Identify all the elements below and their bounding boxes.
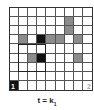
grid-cell <box>74 54 83 63</box>
grid-cell <box>65 44 74 53</box>
grid-cell <box>28 44 37 53</box>
grid-cell <box>28 63 37 72</box>
grid-cell <box>10 44 19 53</box>
grid-cell <box>28 35 37 44</box>
grid-cell <box>56 44 65 53</box>
grid-cell <box>37 44 46 53</box>
grid-cell <box>56 81 65 90</box>
grid-cell <box>19 63 28 72</box>
caption-text: t = k <box>37 96 53 105</box>
grid-cell <box>65 81 74 90</box>
grid-cell <box>28 17 37 26</box>
grid-cell <box>19 8 28 17</box>
grid-cell <box>19 35 28 44</box>
grid-cell <box>56 54 65 63</box>
grid-cell <box>10 26 19 35</box>
grid-cell <box>28 54 37 63</box>
grid-cell <box>46 35 55 44</box>
grid-cell <box>10 72 19 81</box>
grid-cell <box>46 17 55 26</box>
grid-cell <box>74 81 83 90</box>
grid-cell <box>46 54 55 63</box>
grid-cell <box>37 8 46 17</box>
grid-cell <box>74 17 83 26</box>
grid-cell <box>37 54 46 63</box>
grid-cell <box>74 72 83 81</box>
grid-cell <box>10 63 19 72</box>
grid-cell <box>83 17 92 26</box>
grid-cell <box>19 26 28 35</box>
grid-cell <box>28 26 37 35</box>
grid-cell <box>56 35 65 44</box>
grid-cell <box>28 72 37 81</box>
grid-cell <box>37 63 46 72</box>
grid-cell <box>46 8 55 17</box>
grid-cell <box>65 72 74 81</box>
grid-cell <box>83 35 92 44</box>
grid-cell <box>46 72 55 81</box>
grid-cell <box>28 8 37 17</box>
grid-cell <box>56 72 65 81</box>
grid-cell <box>10 35 19 44</box>
grid-cell <box>37 17 46 26</box>
grid-board: 12 <box>9 7 93 91</box>
grid-cell <box>46 44 55 53</box>
grid-cell <box>37 81 46 90</box>
grid-cell <box>46 26 55 35</box>
cell-label: 2 <box>87 83 91 90</box>
grid-cell <box>19 54 28 63</box>
cell-label: 1 <box>11 83 15 90</box>
grid-cell <box>46 63 55 72</box>
grid-cell <box>74 63 83 72</box>
grid-cell <box>65 35 74 44</box>
grid-cell <box>83 26 92 35</box>
grid-cell <box>37 35 46 44</box>
grid-cell <box>65 8 74 17</box>
grid-cell <box>56 17 65 26</box>
grid-cell <box>28 81 37 90</box>
grid-cell <box>83 63 92 72</box>
grid-cell <box>10 8 19 17</box>
grid-cell <box>56 26 65 35</box>
grid-cell <box>65 54 74 63</box>
grid-cell <box>19 81 28 90</box>
grid-cell: 2 <box>83 81 92 90</box>
grid-cell <box>56 63 65 72</box>
grid-cell: 1 <box>10 81 19 90</box>
time-caption: t = k1 <box>0 96 94 107</box>
grid-cell <box>56 8 65 17</box>
grid-cell <box>37 26 46 35</box>
grid-cell <box>65 26 74 35</box>
grid-cell <box>19 72 28 81</box>
grid-cell <box>10 54 19 63</box>
grid-cell <box>83 8 92 17</box>
grid-cell <box>37 72 46 81</box>
caption-subscript: 1 <box>54 101 57 107</box>
grid-cell <box>83 54 92 63</box>
grid-cell <box>19 44 28 53</box>
grid-cell <box>83 44 92 53</box>
grid-cell <box>83 72 92 81</box>
grid-cell <box>65 17 74 26</box>
grid-cell <box>10 17 19 26</box>
grid-cell <box>19 17 28 26</box>
grid-cell <box>46 81 55 90</box>
grid-cell <box>65 63 74 72</box>
grid-cell <box>74 44 83 53</box>
grid-cell <box>74 8 83 17</box>
grid-cell <box>74 26 83 35</box>
grid-cell <box>74 35 83 44</box>
